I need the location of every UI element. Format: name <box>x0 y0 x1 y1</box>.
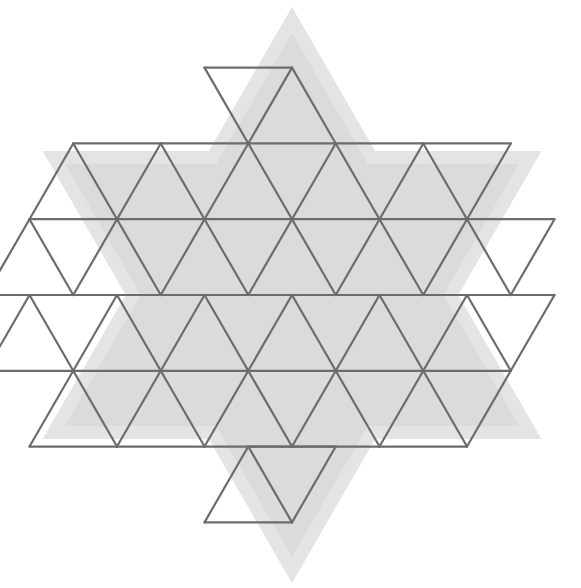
grid-edge <box>0 295 30 371</box>
grid-edge <box>511 219 555 295</box>
grid-edge <box>511 295 555 371</box>
grid-edge <box>0 219 30 295</box>
grid-edge <box>30 295 74 371</box>
figure-root: Triangular tiling of a hexagram <box>0 0 581 588</box>
grid-edge <box>30 219 74 295</box>
hexagram-tiling-figure: Triangular tiling of a hexagram <box>0 0 581 588</box>
